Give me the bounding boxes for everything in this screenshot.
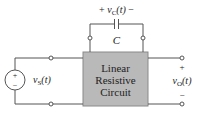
terminal-out-top bbox=[180, 56, 184, 60]
output-minus: − bbox=[179, 90, 184, 100]
terminal-cap-right bbox=[141, 36, 145, 40]
block-label-line2: Resistive bbox=[95, 74, 135, 86]
terminal-out-bottom bbox=[180, 102, 184, 106]
capacitor-label: C bbox=[113, 34, 121, 46]
terminal-cap-left bbox=[88, 36, 92, 40]
terminal-in-bottom bbox=[49, 102, 53, 106]
source-minus: − bbox=[13, 81, 18, 90]
block-label-line3: Circuit bbox=[100, 86, 131, 98]
block-label-line1: Linear bbox=[101, 62, 130, 74]
output-label: vO(t) bbox=[173, 75, 193, 88]
source-label: vS(t) bbox=[33, 74, 51, 87]
source-plus: + bbox=[13, 71, 18, 80]
capacitor-voltage-label: + vC(t) − bbox=[99, 4, 134, 17]
output-plus: + bbox=[179, 62, 184, 72]
circuit-diagram: Linear Resistive Circuit C + vC(t) − + −… bbox=[0, 0, 199, 123]
terminal-in-top bbox=[49, 56, 53, 60]
